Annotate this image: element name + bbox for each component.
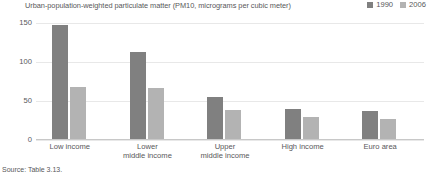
y-tick-label: 150	[19, 19, 32, 27]
x-tick-label: Low income	[36, 142, 114, 160]
bar[interactable]	[130, 52, 146, 140]
plot-area	[36, 23, 424, 140]
x-tick-label: Uppermiddle income	[191, 142, 269, 160]
legend-label-2006: 2006	[409, 1, 426, 9]
chart-figure: Urban-population-weighted particulate ma…	[0, 0, 428, 176]
bar[interactable]	[225, 110, 241, 140]
bar[interactable]	[303, 117, 319, 140]
legend-item-2006[interactable]: 2006	[400, 1, 426, 9]
bar-group	[36, 23, 114, 140]
bar[interactable]	[52, 25, 68, 140]
bar-group	[269, 23, 347, 140]
bar[interactable]	[362, 111, 378, 140]
gridline	[36, 140, 424, 141]
bar-groups	[36, 23, 424, 140]
chart-legend: 1990 2006	[367, 1, 426, 9]
bar-group	[114, 23, 192, 140]
legend-swatch-1990	[367, 2, 373, 8]
bar-group	[346, 23, 424, 140]
x-tick-label: Euro area	[346, 142, 424, 160]
axis-baseline	[36, 139, 424, 140]
y-tick-label: 100	[19, 58, 32, 66]
y-tick-label: 50	[24, 97, 32, 105]
bar[interactable]	[207, 97, 223, 140]
y-tick-label: 0	[28, 136, 32, 144]
source-note: Source: Table 3.13.	[2, 166, 62, 173]
legend-item-1990[interactable]: 1990	[367, 1, 393, 9]
bar-group	[191, 23, 269, 140]
x-tick-label: Lowermiddle income	[114, 142, 192, 160]
bar[interactable]	[285, 109, 301, 140]
bar[interactable]	[380, 119, 396, 140]
legend-swatch-2006	[400, 2, 406, 8]
bar[interactable]	[70, 87, 86, 140]
bar[interactable]	[148, 88, 164, 140]
x-tick-label: High income	[269, 142, 347, 160]
legend-label-1990: 1990	[376, 1, 393, 9]
y-axis: 050100150	[0, 23, 32, 140]
chart-header: Urban-population-weighted particulate ma…	[0, 0, 428, 16]
x-axis-category-labels: Low incomeLowermiddle incomeUppermiddle …	[36, 142, 424, 160]
chart-title: Urban-population-weighted particulate ma…	[25, 1, 291, 10]
